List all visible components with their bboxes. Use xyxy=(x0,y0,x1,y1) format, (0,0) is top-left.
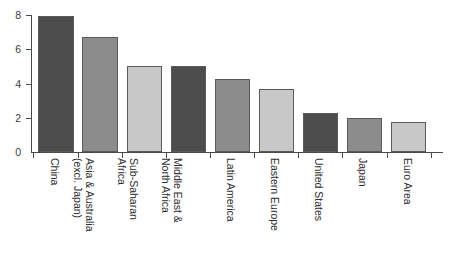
x-axis-line xyxy=(31,152,443,153)
x-category-label-line: China xyxy=(49,158,61,185)
y-tick-label-2: 2 xyxy=(0,113,21,124)
bar xyxy=(303,113,338,152)
x-category-label-line: North Africa xyxy=(160,158,172,223)
x-category-label: Eastern Europe xyxy=(269,158,281,231)
x-category-label-line: Latin America xyxy=(225,158,237,222)
x-category-label-line: United States xyxy=(313,158,325,221)
bar xyxy=(259,89,294,152)
x-category-label: Middle East &North Africa xyxy=(160,158,183,223)
y-tick-label-8: 8 xyxy=(0,10,21,21)
x-category-label: China xyxy=(49,158,61,185)
bar xyxy=(127,66,162,152)
x-category-label-line: Euro Area xyxy=(401,158,413,205)
y-tick-label-6: 6 xyxy=(0,44,21,55)
x-category-label-line: Asia & Australia xyxy=(84,158,96,232)
bar xyxy=(391,122,426,152)
bar xyxy=(215,79,250,152)
x-category-label-line: Japan xyxy=(357,158,369,187)
bar xyxy=(347,118,382,152)
x-axis-category-labels: ChinaAsia & Australia(excl. Japan)Sub-Sa… xyxy=(32,158,444,257)
x-category-label-line: Eastern Europe xyxy=(269,158,281,231)
x-category-label: Sub-SaharanAfrica xyxy=(116,158,139,220)
bar-chart: 02468 ChinaAsia & Australia(excl. Japan)… xyxy=(0,0,449,257)
x-category-label: Japan xyxy=(357,158,369,187)
x-category-label-line: Middle East & xyxy=(172,158,184,223)
bar xyxy=(171,66,206,152)
bar-series xyxy=(32,15,444,152)
x-category-label: United States xyxy=(313,158,325,221)
x-category-label: Latin America xyxy=(225,158,237,222)
y-tick-label-0: 0 xyxy=(0,147,21,158)
x-category-label: Asia & Australia(excl. Japan) xyxy=(72,158,95,232)
bar xyxy=(82,37,117,152)
x-category-label-line: Africa xyxy=(116,158,128,220)
x-category-label-line: (excl. Japan) xyxy=(72,158,84,232)
x-category-label: Euro Area xyxy=(401,158,413,205)
x-category-label-line: Sub-Saharan xyxy=(128,158,140,220)
y-tick-label-4: 4 xyxy=(0,79,21,90)
bar xyxy=(38,16,73,152)
